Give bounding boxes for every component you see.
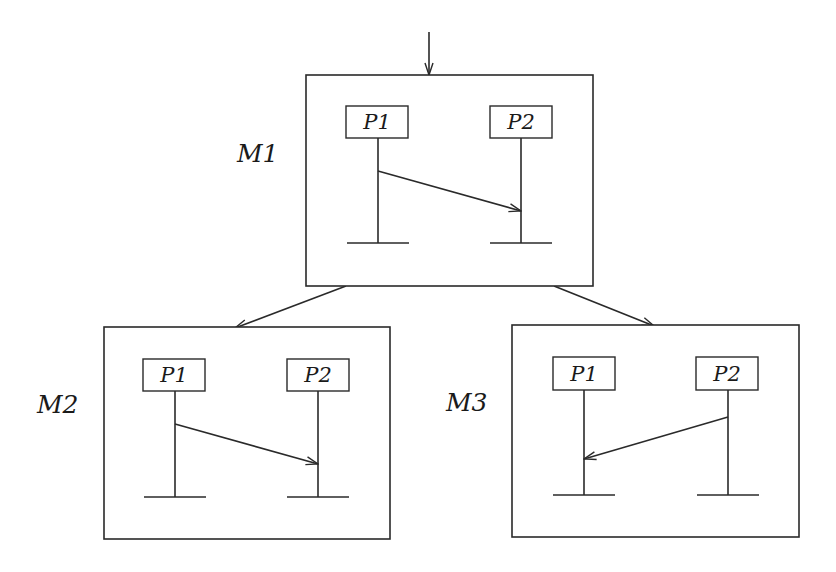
process-label: P1 <box>569 362 598 386</box>
process-label: P2 <box>303 363 332 387</box>
process-label: P2 <box>712 362 741 386</box>
transition-arrow-m1-to-m3 <box>554 286 654 326</box>
process-label: P1 <box>159 363 188 387</box>
transition-arrow-m1-to-m2 <box>235 286 346 328</box>
chart-label: M2 <box>36 390 79 419</box>
chart-label: M1 <box>236 139 279 168</box>
chart-m1: M1P1P2 <box>236 75 593 286</box>
chart-m3: M3P1P2 <box>445 325 799 537</box>
msc-charts: M1P1P2M2P1P2M3P1P2 <box>36 75 799 539</box>
chart-m2: M2P1P2 <box>36 327 390 539</box>
process-label: P2 <box>506 110 535 134</box>
diagram-canvas: M1P1P2M2P1P2M3P1P2 <box>0 0 836 572</box>
process-label: P1 <box>362 110 391 134</box>
chart-label: M3 <box>445 388 488 417</box>
